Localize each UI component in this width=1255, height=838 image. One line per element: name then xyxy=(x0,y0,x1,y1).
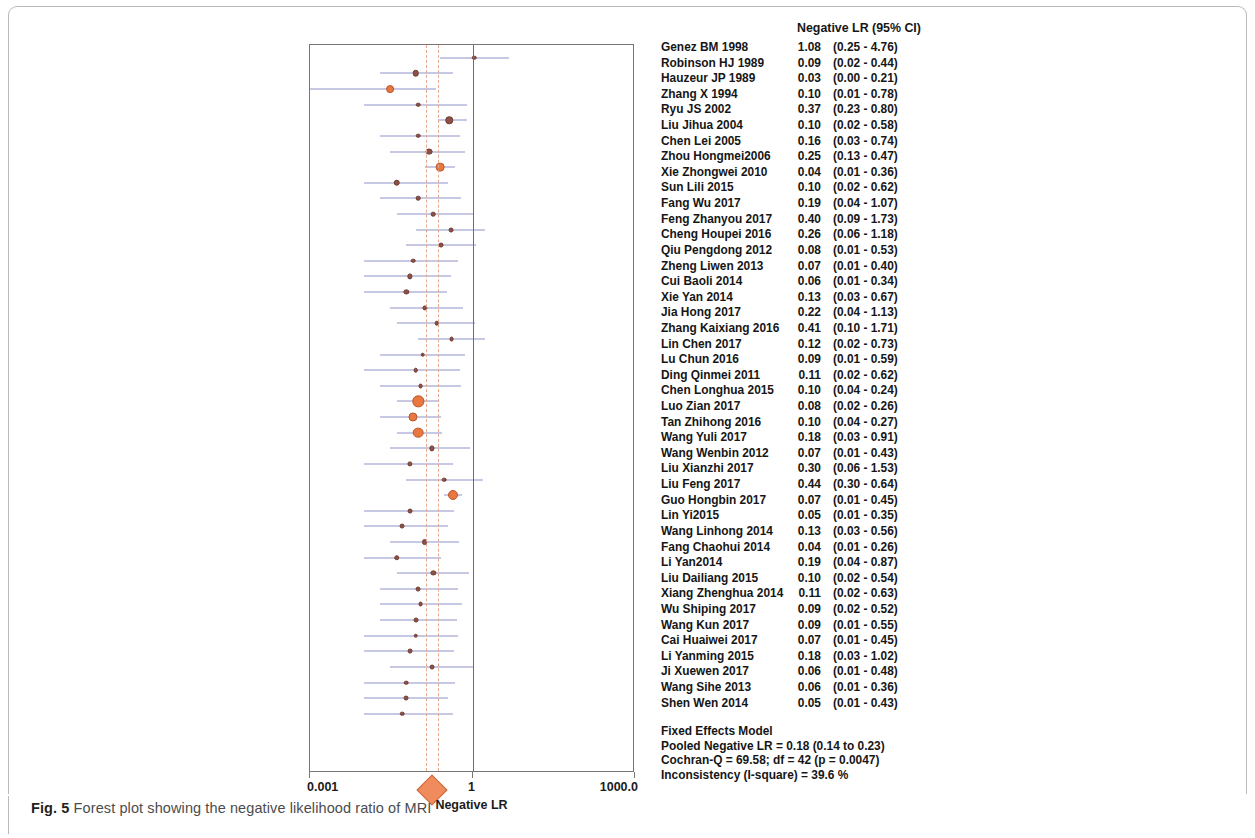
study-estimate-marker xyxy=(394,179,401,186)
estimate-value: 0.10 xyxy=(787,415,821,429)
forest-row xyxy=(310,519,633,535)
estimate-value: 0.10 xyxy=(787,383,821,397)
study-estimate-marker xyxy=(418,383,423,388)
study-label: Sun Lili 2015 xyxy=(661,180,734,194)
study-label: Chen Longhua 2015 xyxy=(661,383,774,397)
study-estimate-marker xyxy=(407,274,412,279)
confidence-interval-value: (0.01 - 0.48) xyxy=(833,664,898,678)
study-estimate-marker xyxy=(394,555,400,561)
confidence-interval-value: (0.04 - 0.87) xyxy=(833,555,898,569)
confidence-interval-line xyxy=(364,182,448,183)
study-label: Robinson HJ 1989 xyxy=(661,56,764,70)
table-row: Qiu Pengdong 20120.08(0.01 - 0.53) xyxy=(661,243,1011,259)
table-row: Jia Hong 20170.22(0.04 - 1.13) xyxy=(661,305,1011,321)
table-row: Xie Yan 20140.13(0.03 - 0.67) xyxy=(661,290,1011,306)
plot-box xyxy=(309,44,634,772)
confidence-interval-value: (0.02 - 0.73) xyxy=(833,337,898,351)
confidence-interval-value: (0.02 - 0.44) xyxy=(833,56,898,70)
estimate-value: 0.37 xyxy=(787,102,821,116)
study-estimate-marker xyxy=(404,680,409,685)
forest-row xyxy=(310,612,633,628)
table-row: Xiang Zhenghua 20140.11(0.02 - 0.63) xyxy=(661,586,1011,602)
table-row: Cheng Houpei 20160.26(0.06 - 1.18) xyxy=(661,227,1011,243)
table-body: Genez BM 19981.08(0.25 - 4.76)Robinson H… xyxy=(661,40,1011,711)
study-estimate-marker xyxy=(414,368,419,373)
table-row: Wang Sihe 20130.06(0.01 - 0.36) xyxy=(661,680,1011,696)
figure-number: Fig. 5 xyxy=(31,800,69,816)
forest-row xyxy=(310,237,633,253)
estimate-value: 0.16 xyxy=(787,134,821,148)
forest-row xyxy=(310,269,633,285)
estimate-value: 0.11 xyxy=(787,586,821,600)
confidence-interval-value: (0.01 - 0.35) xyxy=(833,508,898,522)
study-label: Wang Wenbin 2012 xyxy=(661,446,769,460)
study-label: Cui Baoli 2014 xyxy=(661,274,742,288)
study-label: Qiu Pengdong 2012 xyxy=(661,243,772,257)
study-label: Fang Chaohui 2014 xyxy=(661,540,770,554)
forest-row xyxy=(310,300,633,316)
study-label: Luo Zian 2017 xyxy=(661,399,740,413)
table-row: Liu Feng 20170.44(0.30 - 0.64) xyxy=(661,477,1011,493)
estimate-value: 0.08 xyxy=(787,399,821,413)
x-axis-tick xyxy=(309,772,310,778)
study-label: Li Yanming 2015 xyxy=(661,649,754,663)
estimate-value: 0.10 xyxy=(787,87,821,101)
forest-row xyxy=(310,644,633,660)
confidence-interval-value: (0.04 - 1.13) xyxy=(833,305,898,319)
estimate-value: 0.44 xyxy=(787,477,821,491)
study-estimate-marker xyxy=(400,524,405,529)
table-row: Fang Chaohui 20140.04(0.01 - 0.26) xyxy=(661,540,1011,556)
study-label: Wang Sihe 2013 xyxy=(661,680,751,694)
forest-row xyxy=(310,628,633,644)
estimate-value: 0.09 xyxy=(787,352,821,366)
confidence-interval-value: (0.01 - 0.59) xyxy=(833,352,898,366)
study-estimate-marker xyxy=(416,586,421,591)
study-estimate-marker xyxy=(445,117,452,124)
confidence-interval-value: (0.01 - 0.45) xyxy=(833,633,898,647)
null-effect-line xyxy=(473,45,474,771)
forest-row xyxy=(310,191,633,207)
confidence-interval-line xyxy=(364,713,452,714)
table-header-row: Negative LR (95% CI) xyxy=(661,21,1011,40)
table-row: Hauzeur JP 19890.03(0.00 - 0.21) xyxy=(661,71,1011,87)
study-label: Liu Jihua 2004 xyxy=(661,118,743,132)
confidence-interval-value: (0.02 - 0.58) xyxy=(833,118,898,132)
study-label: Wang Yuli 2017 xyxy=(661,430,747,444)
study-estimate-marker xyxy=(413,70,420,77)
estimate-value: 0.05 xyxy=(787,696,821,710)
estimate-value: 0.10 xyxy=(787,118,821,132)
study-label: Genez BM 1998 xyxy=(661,40,748,54)
estimate-value: 0.03 xyxy=(787,71,821,85)
confidence-interval-value: (0.02 - 0.63) xyxy=(833,586,898,600)
study-label: Lin Yi2015 xyxy=(661,508,719,522)
confidence-interval-value: (0.10 - 1.71) xyxy=(833,321,898,335)
forest-row xyxy=(310,112,633,128)
estimate-value: 0.09 xyxy=(787,618,821,632)
study-label: Hauzeur JP 1989 xyxy=(661,71,755,85)
confidence-interval-value: (0.03 - 1.02) xyxy=(833,649,898,663)
confidence-interval-value: (0.04 - 0.27) xyxy=(833,415,898,429)
confidence-interval-line xyxy=(380,620,457,621)
estimate-value: 1.08 xyxy=(787,40,821,54)
table-row: Lin Yi20150.05(0.01 - 0.35) xyxy=(661,508,1011,524)
table-row: Feng Zhanyou 20170.40(0.09 - 1.73) xyxy=(661,212,1011,228)
confidence-interval-value: (0.01 - 0.43) xyxy=(833,696,898,710)
summary-statistics: Fixed Effects Model Pooled Negative LR =… xyxy=(661,724,1021,782)
forest-row xyxy=(310,144,633,160)
estimate-value: 0.10 xyxy=(787,180,821,194)
study-label: Wang Linhong 2014 xyxy=(661,524,773,538)
confidence-interval-value: (0.01 - 0.26) xyxy=(833,540,898,554)
forest-row xyxy=(310,253,633,269)
confidence-interval-value: (0.02 - 0.54) xyxy=(833,571,898,585)
estimate-value: 0.22 xyxy=(787,305,821,319)
forest-row xyxy=(310,394,633,410)
forest-row xyxy=(310,441,633,457)
forest-row xyxy=(310,331,633,347)
x-axis-tick xyxy=(472,772,473,778)
table-row: Ryu JS 20020.37(0.23 - 0.80) xyxy=(661,102,1011,118)
forest-row xyxy=(310,503,633,519)
table-header-label: Negative LR (95% CI) xyxy=(797,21,921,35)
study-label: Lu Chun 2016 xyxy=(661,352,739,366)
study-estimate-marker xyxy=(420,352,425,357)
table-row: Liu Jihua 20040.10(0.02 - 0.58) xyxy=(661,118,1011,134)
